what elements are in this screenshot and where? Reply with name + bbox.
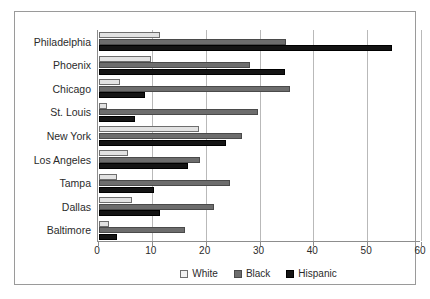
bar-dallas-hispanic — [99, 210, 160, 216]
legend-item-hispanic[interactable]: Hispanic — [286, 268, 336, 279]
category-axis-labels: PhiladelphiaPhoenixChicagoSt. LouisNew Y… — [15, 30, 91, 242]
x-tick-label: 60 — [405, 245, 430, 256]
gridline — [260, 30, 261, 241]
bar-phoenix-black — [99, 62, 250, 68]
bar-baltimore-white — [99, 221, 109, 227]
x-tick-label: 40 — [297, 245, 327, 256]
bar-philadelphia-black — [99, 39, 286, 45]
bar-st-louis-white — [99, 103, 107, 109]
legend-item-black[interactable]: Black — [234, 268, 270, 279]
gridline — [313, 30, 314, 241]
legend-label: Black — [246, 268, 270, 279]
bar-los-angeles-hispanic — [99, 163, 188, 169]
x-tick-label: 10 — [136, 245, 166, 256]
x-tick-label: 0 — [82, 245, 112, 256]
bar-tampa-white — [99, 174, 117, 180]
category-label-philadelphia: Philadelphia — [34, 36, 91, 48]
bar-los-angeles-white — [99, 150, 128, 156]
bar-phoenix-white — [99, 56, 151, 62]
chart-frame: PhiladelphiaPhoenixChicagoSt. LouisNew Y… — [14, 11, 416, 285]
category-label-tampa: Tampa — [59, 177, 91, 189]
chart-legend: WhiteBlackHispanic — [97, 268, 420, 279]
x-tick-label: 20 — [190, 245, 220, 256]
category-label-dallas: Dallas — [62, 201, 91, 213]
bar-baltimore-hispanic — [99, 234, 117, 240]
bar-phoenix-hispanic — [99, 69, 285, 75]
bar-dallas-white — [99, 197, 132, 203]
bar-chicago-white — [99, 79, 120, 85]
legend-label: White — [192, 268, 218, 279]
black-swatch-icon — [234, 270, 242, 278]
legend-label: Hispanic — [298, 268, 336, 279]
bar-tampa-hispanic — [99, 187, 154, 193]
bar-los-angeles-black — [99, 157, 200, 163]
category-label-new-york: New York — [47, 130, 91, 142]
hispanic-swatch-icon — [286, 270, 294, 278]
gridline — [421, 30, 422, 241]
category-label-baltimore: Baltimore — [47, 224, 91, 236]
white-swatch-icon — [180, 270, 188, 278]
category-label-los-angeles: Los Angeles — [34, 154, 91, 166]
gridline — [367, 30, 368, 241]
x-tick-label: 50 — [351, 245, 381, 256]
plot-area — [97, 30, 420, 242]
bar-st-louis-black — [99, 109, 258, 115]
bar-new-york-white — [99, 126, 199, 132]
bar-dallas-black — [99, 204, 214, 210]
legend-item-white[interactable]: White — [180, 268, 218, 279]
bar-st-louis-hispanic — [99, 116, 135, 122]
bar-baltimore-black — [99, 227, 185, 233]
category-label-chicago: Chicago — [52, 83, 91, 95]
bar-philadelphia-hispanic — [99, 45, 392, 51]
bar-tampa-black — [99, 180, 230, 186]
bar-new-york-black — [99, 133, 242, 139]
bar-chicago-hispanic — [99, 92, 145, 98]
chart-root: PhiladelphiaPhoenixChicagoSt. LouisNew Y… — [0, 0, 430, 299]
bar-chicago-black — [99, 86, 290, 92]
bar-new-york-hispanic — [99, 140, 226, 146]
x-tick-label: 30 — [244, 245, 274, 256]
category-label-st-louis: St. Louis — [50, 106, 91, 118]
bar-philadelphia-white — [99, 32, 160, 38]
category-label-phoenix: Phoenix — [53, 59, 91, 71]
